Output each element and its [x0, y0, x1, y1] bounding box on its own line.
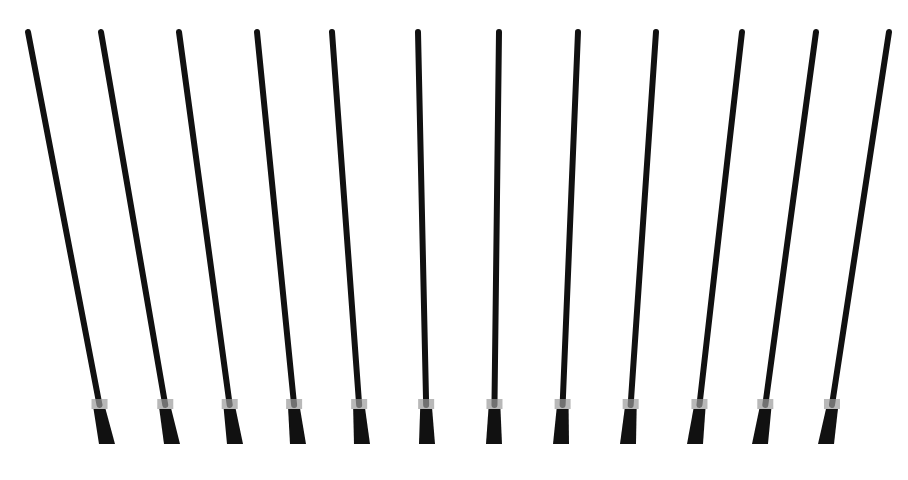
clip — [351, 399, 367, 409]
clip — [157, 399, 173, 409]
clip — [222, 399, 238, 409]
clip — [691, 399, 707, 409]
clip — [418, 399, 434, 409]
clip — [92, 399, 108, 409]
clip — [623, 399, 639, 409]
clip — [757, 399, 773, 409]
rods-photo — [0, 0, 908, 480]
clip — [555, 399, 571, 409]
socket — [486, 409, 502, 444]
clip — [486, 399, 502, 409]
clip — [286, 399, 302, 409]
clip — [824, 399, 840, 409]
